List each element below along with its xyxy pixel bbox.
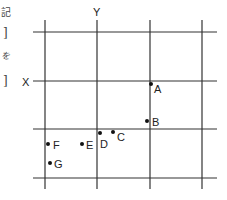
point-b-label: B	[152, 116, 159, 128]
point-d-label: D	[100, 138, 108, 150]
point-b	[145, 119, 149, 123]
point-g-label: G	[54, 158, 63, 170]
y-axis-label: Y	[93, 6, 101, 18]
point-g	[48, 161, 52, 165]
point-a-label: A	[154, 83, 162, 95]
point-d	[98, 131, 102, 135]
point-f	[46, 142, 50, 146]
point-f-label: F	[53, 139, 60, 151]
x-axis-label: X	[22, 76, 30, 88]
point-c	[111, 130, 115, 134]
point-c-label: C	[117, 131, 125, 143]
point-e	[80, 142, 84, 146]
point-e-label: E	[86, 139, 93, 151]
grid-diagram: Y X A B C D E F G	[0, 0, 227, 200]
point-a	[149, 82, 153, 86]
